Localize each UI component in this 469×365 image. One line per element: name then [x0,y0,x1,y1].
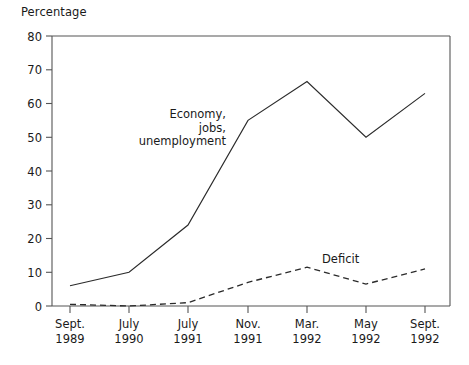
x-tick-marks [70,306,425,313]
y-tick-label-10: 10 [27,266,42,280]
y-tick-label-0: 0 [35,300,42,314]
deficit-annotation: Deficit [322,253,359,267]
x-tick-label-1-month: July [118,317,140,331]
x-tick-label-3-year: 1991 [233,332,262,346]
x-tick-label-0-month: Sept. [55,317,85,331]
x-tick-label-4-year: 1992 [292,332,321,346]
x-tick-label-3-month: Nov. [235,317,260,331]
y-tick-label-40: 40 [27,165,42,179]
chart-plot-area: 80 70 60 50 40 30 20 10 0 Sept. 1989 Jul… [0,0,469,365]
economy-annotation: Economy, jobs, unemployment [96,108,226,149]
y-tick-label-50: 50 [27,131,42,145]
economy-annotation-line-2: jobs, [96,122,226,136]
x-tick-label-1-year: 1990 [114,332,143,346]
x-tick-label-6-year: 1992 [410,332,439,346]
x-tick-label-4-month: Mar. [295,317,319,331]
y-tick-marks [46,36,52,306]
x-tick-label-5-month: May [354,317,378,331]
y-tick-label-60: 60 [27,97,42,111]
y-tick-label-70: 70 [27,63,42,77]
y-tick-label-80: 80 [27,30,42,44]
y-tick-label-30: 30 [27,198,42,212]
x-tick-label-5-year: 1992 [351,332,380,346]
x-tick-label-2-month: July [177,317,199,331]
chart-figure: Percentage 80 70 60 50 40 [0,0,469,365]
plot-frame [52,36,450,306]
y-tick-labels: 80 70 60 50 40 30 20 10 0 [27,30,42,314]
y-tick-label-20: 20 [27,232,42,246]
economy-annotation-line-1: Economy, [96,108,226,122]
x-tick-label-0-year: 1989 [55,332,84,346]
economy-annotation-line-3: unemployment [96,135,226,149]
x-tick-labels: Sept. 1989 July 1990 July 1991 Nov. 1991… [55,317,440,346]
x-tick-label-6-month: Sept. [410,317,440,331]
x-tick-label-2-year: 1991 [173,332,202,346]
